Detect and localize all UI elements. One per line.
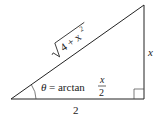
right-angle-marker	[134, 89, 144, 99]
base-label: 2	[73, 104, 79, 116]
fraction-numerator: x	[99, 74, 105, 85]
exponent-text: 2	[78, 25, 86, 34]
fraction-denominator: 2	[99, 87, 104, 98]
vertical-side-label: x	[147, 46, 153, 58]
angle-label: θ = arctan x 2	[41, 74, 106, 98]
angle-arc	[32, 85, 37, 99]
hypotenuse-label: 4 + x 2	[47, 22, 92, 59]
angle-equals-arctan: = arctan	[49, 81, 85, 93]
triangle-diagram: 4 + x 2 x 2 θ = arctan x 2	[0, 0, 160, 123]
theta-symbol: θ	[41, 81, 47, 93]
